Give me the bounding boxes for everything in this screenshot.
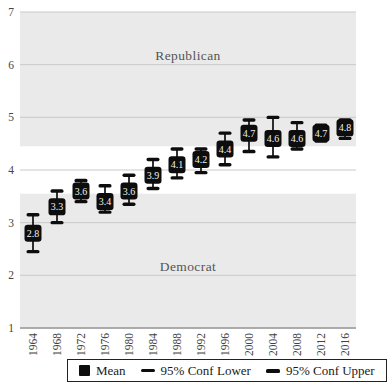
ci-cap-upper (123, 174, 136, 177)
ci-cap-lower (291, 147, 304, 150)
mean-value-label: 4.6 (267, 133, 280, 144)
ci-cap-upper (219, 131, 232, 134)
legend: Mean 95% Conf Lower 95% Conf Upper (67, 359, 387, 382)
y-axis-tick-label: 7 (8, 6, 14, 18)
x-axis-tick-label: 1976 (99, 333, 111, 356)
ci-cap-upper (51, 189, 64, 192)
mean-value-label: 4.4 (219, 144, 232, 155)
mean-value-label: 4.7 (315, 128, 328, 139)
legend-item-conf-lower: 95% Conf Lower (141, 363, 251, 379)
x-axis-tick-label: 1996 (219, 333, 231, 356)
republican-band (20, 12, 356, 146)
mean-value-label: 4.6 (291, 133, 304, 144)
ci-cap-lower (195, 171, 208, 174)
mean-value-label: 3.9 (147, 170, 160, 181)
x-axis-tick-label: 1980 (123, 333, 135, 356)
legend-label-mean: Mean (96, 363, 126, 379)
ci-cap-lower (243, 150, 256, 153)
ci-cap-upper (171, 147, 184, 150)
ci-cap-lower (267, 155, 280, 158)
x-axis-tick-label: 2004 (267, 333, 279, 356)
dash-lower-icon (141, 369, 155, 372)
ci-cap-upper (195, 147, 208, 150)
ci-cap-lower (339, 137, 352, 140)
ci-cap-upper (99, 184, 112, 187)
y-axis-tick-label: 1 (8, 322, 14, 334)
x-axis-tick-label: 1968 (51, 333, 63, 356)
x-axis-tick-label: 1988 (171, 333, 183, 356)
mean-value-label: 3.4 (99, 196, 112, 207)
x-axis-tick-label: 1992 (195, 333, 207, 356)
ci-cap-lower (147, 187, 160, 190)
x-axis-tick-label: 2016 (339, 333, 351, 356)
ci-cap-upper (27, 213, 40, 216)
ci-cap-lower (123, 203, 136, 206)
ci-cap-upper (147, 158, 160, 161)
mean-value-label: 3.3 (51, 201, 64, 212)
x-axis-tick-label: 2008 (291, 333, 303, 356)
y-axis-tick-label: 4 (8, 164, 14, 176)
mean-value-label: 4.7 (243, 128, 256, 139)
ci-cap-upper (75, 179, 88, 182)
democrat-band (20, 194, 356, 328)
x-axis-tick-label: 2000 (243, 333, 255, 356)
x-axis-tick-label: 1964 (27, 333, 39, 356)
mean-value-label: 4.1 (171, 159, 184, 170)
mean-value-label: 3.6 (75, 186, 88, 197)
ci-cap-lower (75, 200, 88, 203)
ci-cap-lower (171, 176, 184, 179)
y-axis-tick-label: 6 (8, 59, 14, 71)
mean-value-label: 4.2 (195, 154, 208, 165)
legend-item-mean: Mean (79, 363, 126, 379)
x-axis-tick-label: 2012 (315, 333, 327, 356)
ci-cap-lower (51, 221, 64, 224)
y-axis-tick-label: 3 (8, 217, 14, 229)
mean-value-label: 4.8 (339, 122, 352, 133)
mean-value-label: 2.8 (27, 228, 40, 239)
legend-label-conf-lower: 95% Conf Lower (161, 363, 251, 379)
x-axis-tick-label: 1972 (75, 333, 87, 356)
ci-cap-upper (291, 121, 304, 124)
dash-upper-icon (266, 369, 280, 373)
mean-value-label: 3.6 (123, 186, 136, 197)
ci-cap-upper (243, 118, 256, 121)
y-axis-tick-label: 2 (8, 269, 14, 281)
ci-cap-lower (27, 250, 40, 253)
legend-label-conf-upper: 95% Conf Upper (286, 363, 375, 379)
ci-cap-lower (99, 210, 112, 213)
legend-item-conf-upper: 95% Conf Upper (266, 363, 375, 379)
mean-square-icon (79, 365, 90, 376)
x-axis-tick-label: 1984 (147, 333, 159, 356)
ci-cap-lower (219, 163, 232, 166)
ci-cap-upper (267, 116, 280, 119)
y-axis-tick-label: 5 (8, 111, 14, 123)
